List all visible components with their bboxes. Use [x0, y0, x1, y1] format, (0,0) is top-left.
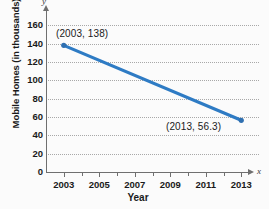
y-axis-letter: y [42, 0, 46, 6]
gridline [46, 44, 259, 45]
y-tick-label: 160 [3, 20, 43, 30]
gridline [46, 117, 259, 118]
y-tick-label: 100 [3, 75, 43, 85]
x-tick-label: 2009 [150, 179, 190, 190]
y-tick-label: 60 [3, 112, 43, 122]
x-tick-label: 2005 [79, 179, 119, 190]
y-tick-label: 120 [3, 57, 43, 67]
plot-area [46, 16, 259, 172]
x-minor-tick-mark [188, 172, 189, 176]
x-axis-title: Year [38, 192, 238, 203]
x-tick-mark [206, 172, 207, 177]
x-minor-tick-mark [153, 172, 154, 176]
annotation-end-point: (2013, 56.3) [166, 121, 221, 132]
gridline [46, 99, 259, 100]
annotation-start-point: (2003, 138) [56, 28, 108, 39]
x-tick-label: 2011 [186, 179, 226, 190]
chart-figure: Mobile Homes (in thousands) Year y x 020… [0, 0, 269, 209]
y-tick-label: 20 [3, 149, 43, 159]
x-axis-line [46, 172, 249, 173]
x-tick-mark [64, 172, 65, 177]
y-tick-label: 0 [3, 167, 43, 177]
x-minor-tick-mark [224, 172, 225, 176]
x-tick-mark [241, 172, 242, 177]
x-minor-tick-mark [117, 172, 118, 176]
x-tick-mark [170, 172, 171, 177]
x-minor-tick-mark [82, 172, 83, 176]
gridline [46, 154, 259, 155]
gridline [46, 25, 259, 26]
y-axis-line [46, 10, 47, 173]
gridline [46, 62, 259, 63]
x-tick-mark [99, 172, 100, 177]
y-tick-label: 80 [3, 94, 43, 104]
x-tick-label: 2003 [44, 179, 84, 190]
x-axis-arrowhead-icon [248, 169, 254, 175]
x-tick-mark [135, 172, 136, 177]
x-tick-label: 2007 [115, 179, 155, 190]
y-tick-label: 140 [3, 39, 43, 49]
gridline [46, 135, 259, 136]
x-tick-label: 2013 [221, 179, 261, 190]
y-tick-label: 40 [3, 130, 43, 140]
gridline [46, 80, 259, 81]
x-axis-letter: x [257, 166, 261, 176]
